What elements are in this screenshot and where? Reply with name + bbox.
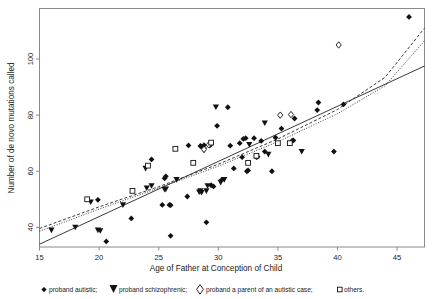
- marker-open-square: [85, 197, 90, 202]
- x-axis-title: Age of Father at Conception of Child: [150, 264, 283, 273]
- x-tick-label-30: 30: [214, 253, 222, 262]
- y-tick-label-40: 40: [27, 223, 36, 231]
- marker-open-square: [275, 141, 280, 146]
- legend-label-parent: proband a parent of an autistic case;: [206, 286, 313, 294]
- marker-open-square: [146, 163, 151, 168]
- x-tick-label-25: 25: [154, 253, 162, 262]
- legend-label-schizophrenic: proband schizophrenic;: [119, 286, 187, 294]
- y-axis-title: Number of de novo mutations called: [7, 62, 16, 194]
- x-tick-label-40: 40: [333, 253, 341, 262]
- x-tick-label-15: 15: [35, 253, 43, 262]
- marker-open-square: [191, 160, 196, 165]
- marker-open-square: [254, 153, 259, 158]
- marker-open-square: [173, 146, 178, 151]
- y-tick-label-60: 60: [27, 167, 36, 175]
- x-tick-label-20: 20: [95, 253, 103, 262]
- marker-open-square: [287, 141, 292, 146]
- scatter-plot-figure: 15202530354045 406080100 Age of Father a…: [0, 0, 433, 299]
- marker-open-square: [130, 188, 135, 193]
- legend-label-autistic: proband autistic;: [49, 286, 98, 294]
- marker-open-square: [209, 140, 214, 145]
- y-tick-label-100: 100: [27, 53, 36, 66]
- legend-marker-others: [338, 287, 343, 292]
- x-tick-label-35: 35: [274, 253, 282, 262]
- marker-open-square: [246, 160, 251, 165]
- x-tick-label-45: 45: [393, 253, 401, 262]
- y-tick-label-80: 80: [27, 111, 36, 119]
- legend-label-others: others.: [344, 286, 364, 293]
